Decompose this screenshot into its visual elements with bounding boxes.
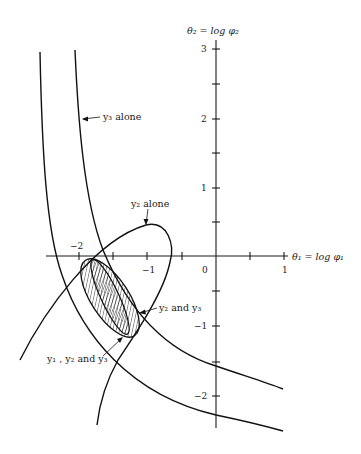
x-tick-label-neg2: −2 xyxy=(70,241,83,251)
x-tick-label-1: 1 xyxy=(282,265,288,275)
x-tick-label-0: 0 xyxy=(202,265,208,275)
y-tick-label-2: 2 xyxy=(201,114,207,124)
y2-alone-text: y₂ alone xyxy=(130,198,170,209)
y1-y2-y3-text: y₁ , y₂ and y₃ xyxy=(46,353,108,364)
y-tick-label-1: 1 xyxy=(201,183,207,193)
y2-and-y3-text: y₂ and y₃ xyxy=(158,302,201,313)
x-tick-label-neg1: −1 xyxy=(142,265,155,275)
label-y3-alone: y₃ alone xyxy=(82,111,142,122)
y-axis-label: θ₂ = log φ₂ xyxy=(187,25,239,36)
confidence-region-diagram: −2 −1 0 1 θ₁ = log φ₁ 3 2 1 −1 −2 θ₂ = l… xyxy=(0,0,361,454)
y-axis: 3 2 1 −1 −2 θ₂ = log φ₂ xyxy=(187,25,239,428)
label-y2-alone: y₂ alone xyxy=(130,198,170,225)
y3-inner-boundary xyxy=(75,50,283,389)
x-axis-label: θ₁ = log φ₁ xyxy=(292,251,344,262)
y3-alone-text: y₃ alone xyxy=(102,111,142,122)
y-tick-label-neg2: −2 xyxy=(194,391,207,401)
y-tick-label-3: 3 xyxy=(201,44,207,54)
y-tick-label-neg1: −1 xyxy=(194,321,207,331)
label-y1-y2-y3: y₁ , y₂ and y₃ xyxy=(46,337,123,364)
